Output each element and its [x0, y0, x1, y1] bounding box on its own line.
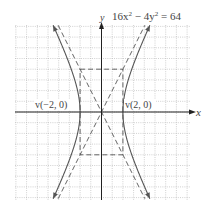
hyperbola-graph: y x 16x2 − 4y2 = 64 v(−2, 0) v(2, 0) [0, 0, 205, 211]
y-axis-label: y [99, 12, 105, 23]
vertex-left-label: v(−2, 0) [35, 99, 67, 111]
vertex-right-label: v(2, 0) [125, 99, 152, 111]
equation-label: 16x2 − 4y2 = 64 [112, 10, 181, 22]
axes [15, 22, 196, 200]
x-axis-label: x [195, 106, 201, 118]
